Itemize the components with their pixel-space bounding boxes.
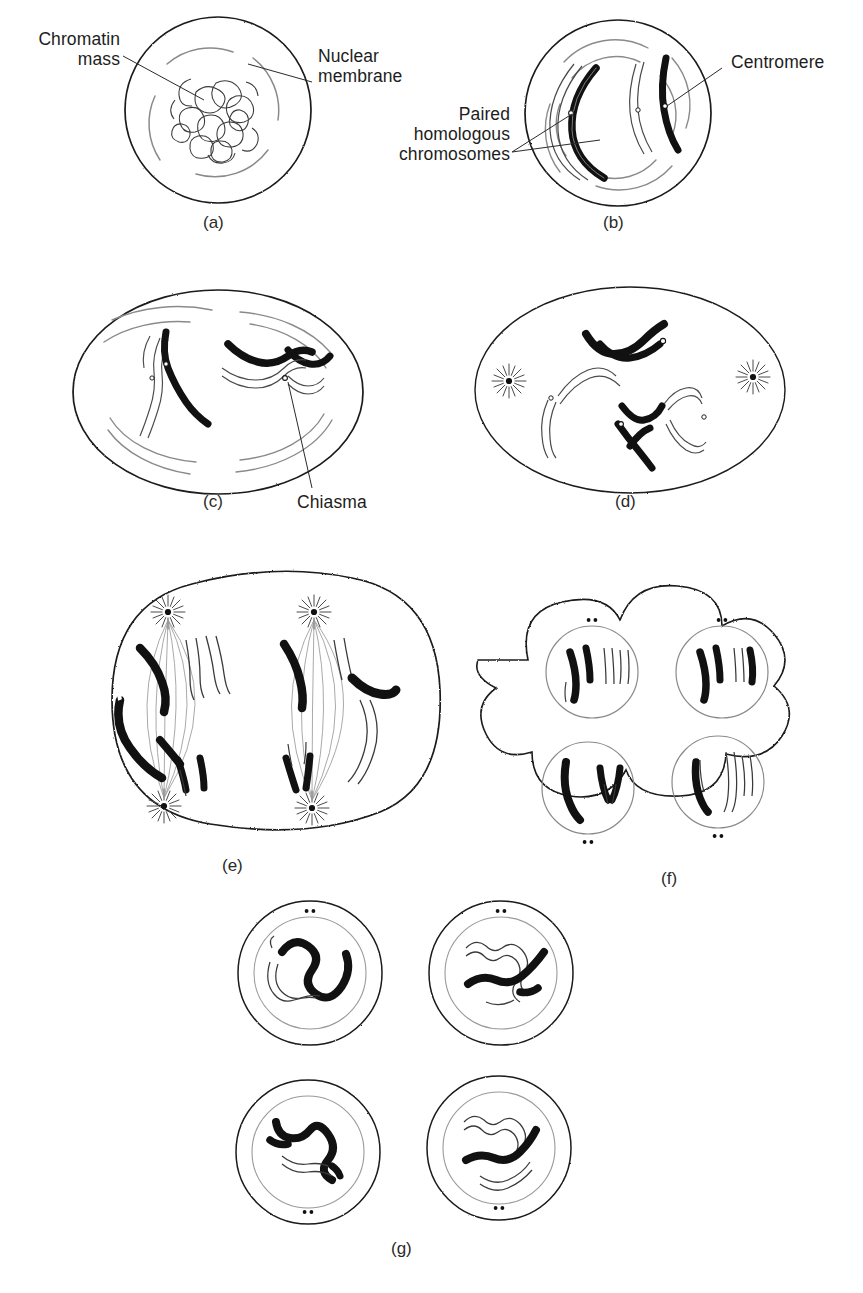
panel-letter-a: (a) [203, 213, 224, 233]
chromosome-dark-f4 [716, 648, 720, 680]
chiasma-point-c [283, 376, 288, 381]
centromere-d3 [619, 422, 624, 427]
label-centromere: Centromere [731, 52, 824, 72]
label-paired-homologous-chromosomes: Paired homologous chromosomes [330, 104, 510, 164]
centromere-d2 [549, 396, 553, 400]
label-chiasma: Chiasma [297, 492, 367, 512]
aster-left-d [492, 364, 526, 398]
panel-letter-e: (e) [222, 856, 243, 876]
panel-letter-b: (b) [603, 213, 624, 233]
label-chromatin-mass: Chromatin mass [6, 29, 120, 69]
meiosis-figure [0, 0, 863, 1293]
panel-letter-g: (g) [391, 1239, 412, 1259]
panel-letter-c: (c) [203, 492, 223, 512]
centromere-c2 [164, 362, 168, 366]
centromere-c1 [150, 376, 154, 380]
centromere-d1 [660, 338, 665, 343]
centromere-b3 [663, 104, 668, 109]
chromosome-dark-e9 [306, 756, 310, 788]
chromosome-dark-e5 [200, 758, 204, 788]
aster-right-d [736, 360, 770, 394]
panel-letter-d: (d) [615, 492, 636, 512]
panel-letter-f: (f) [661, 869, 677, 889]
chromosome-dark-g3 [520, 988, 538, 993]
figure-background [0, 0, 863, 1293]
chromosome-dark-g5 [270, 1140, 288, 1145]
label-nuclear-membrane: Nuclear membrane [318, 46, 402, 86]
centromere-d4 [702, 415, 706, 419]
chromosome-dark-f2 [586, 648, 590, 680]
chromosome-dark-f5 [750, 650, 753, 682]
centromere-b2 [636, 108, 640, 112]
